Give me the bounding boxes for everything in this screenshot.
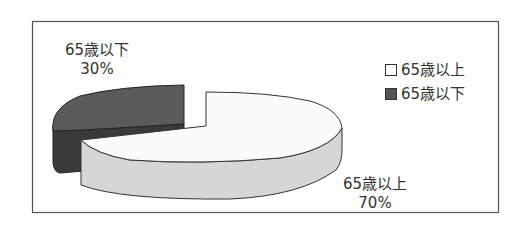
legend-swatch-dark <box>385 88 397 100</box>
data-label-under65: 65歳以下 30% <box>52 41 142 79</box>
legend-label-over65: 65歳以上 <box>401 58 465 82</box>
legend-swatch-white <box>385 64 397 76</box>
data-label-under65-value: 30% <box>52 60 142 79</box>
data-label-over65-name: 65歳以上 <box>330 175 420 194</box>
data-label-under65-name: 65歳以下 <box>52 41 142 60</box>
legend-item-over65: 65歳以上 <box>385 58 465 82</box>
data-label-over65: 65歳以上 70% <box>330 175 420 213</box>
legend-label-under65: 65歳以下 <box>401 82 465 106</box>
legend-item-under65: 65歳以下 <box>385 82 465 106</box>
data-label-over65-value: 70% <box>330 194 420 213</box>
pie-chart-3d <box>0 0 532 250</box>
legend: 65歳以上 65歳以下 <box>385 58 465 106</box>
